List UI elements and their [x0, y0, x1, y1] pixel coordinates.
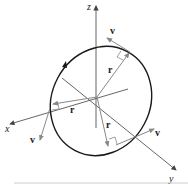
v-label-top: v: [110, 25, 115, 36]
orbit-direction-arrow-icon: [62, 61, 67, 68]
right-angle-mark-top: [117, 51, 123, 60]
v-vector-top: [107, 38, 130, 52]
vector-pair-left: r v: [30, 97, 97, 145]
x-axis-label: x: [4, 123, 10, 134]
r-label-top: r: [108, 64, 113, 75]
right-angle-mark-bottom: [109, 137, 117, 144]
v-vector-bottom: [116, 129, 154, 145]
z-axis-label: z: [86, 1, 91, 12]
v-vector-left: [40, 108, 50, 140]
v-label-left: v: [30, 134, 35, 145]
r-label-bottom: r: [106, 119, 111, 130]
r-label-left: r: [70, 104, 75, 115]
orbit-ellipse: [31, 29, 170, 174]
vector-pair-top: r v: [97, 25, 130, 97]
v-label-bottom: v: [155, 127, 160, 138]
y-axis-label: y: [168, 173, 174, 184]
orbit-diagram: r v r v r v x y z: [0, 0, 188, 184]
